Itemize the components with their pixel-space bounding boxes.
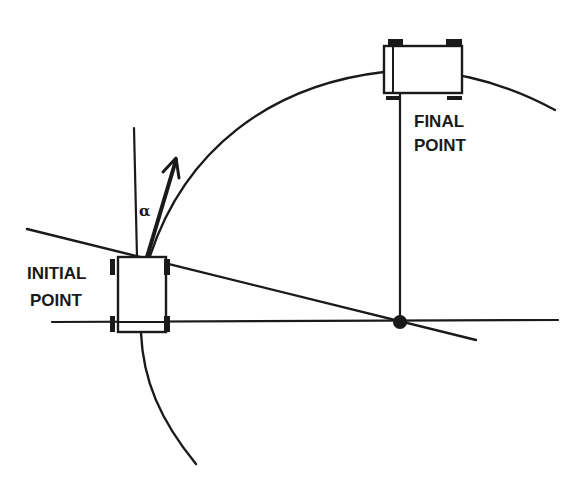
initial-point-label-line1: INITIAL <box>27 264 87 283</box>
vertical-reference-line <box>134 128 137 257</box>
initial-point-label-line2: POINT <box>30 291 83 310</box>
final-point-label-line2: POINT <box>414 136 467 155</box>
wheel-icon <box>386 96 401 100</box>
lower-arc-path <box>141 333 196 464</box>
wheel-icon <box>110 316 115 332</box>
initial-vehicle <box>110 257 170 332</box>
wheel-icon <box>110 259 115 275</box>
upper-arc-path <box>150 71 555 256</box>
steering-geometry-diagram: α INITIAL POINT FINAL POINT <box>0 0 588 483</box>
wheel-icon <box>446 39 462 47</box>
wheel-icon <box>388 39 403 46</box>
angle-alpha-label: α <box>139 202 151 220</box>
tangent-line <box>27 229 476 340</box>
wheel-icon <box>164 316 170 332</box>
wheel-icon <box>164 259 170 275</box>
wheel-icon <box>447 96 462 100</box>
final-point-label-line1: FINAL <box>414 112 464 131</box>
final-vehicle <box>384 39 462 100</box>
center-of-rotation-point <box>393 315 407 329</box>
